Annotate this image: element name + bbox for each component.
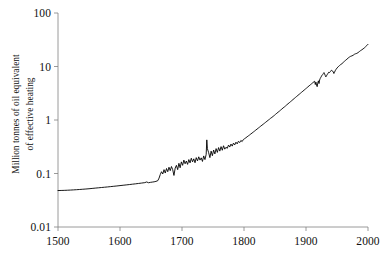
y-axis-tick-label: 10 xyxy=(39,61,51,73)
chart-plot-area xyxy=(0,0,385,264)
x-axis-tick-label: 1600 xyxy=(108,235,131,247)
y-axis-ticks xyxy=(54,13,58,227)
chart-figure: Million tonnes of oil equivalent of effe… xyxy=(0,0,385,264)
x-axis-tick-label: 1800 xyxy=(232,235,255,247)
x-axis-tick-label: 1500 xyxy=(46,235,69,247)
x-axis-tick-label: 1700 xyxy=(170,235,193,247)
y-axis-tick-label: 0.01 xyxy=(30,221,51,233)
x-axis-tick-label: 1900 xyxy=(294,235,317,247)
data-series-line xyxy=(58,44,368,190)
y-axis-tick-label: 1 xyxy=(45,114,51,126)
y-axis-tick-label: 100 xyxy=(33,7,51,19)
x-axis-tick-label: 2000 xyxy=(356,235,379,247)
y-axis-tick-label: 0.1 xyxy=(36,168,51,180)
x-axis-ticks xyxy=(58,227,368,231)
axis-lines xyxy=(58,13,368,227)
